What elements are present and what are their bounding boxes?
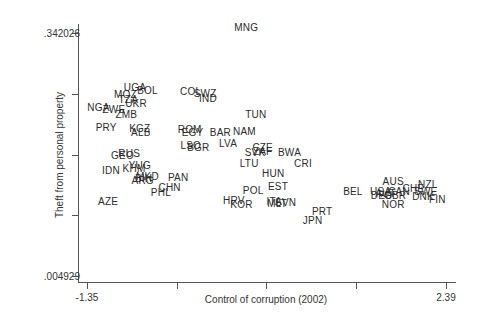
x-tick [177, 283, 178, 289]
data-point-label: PHL [151, 188, 171, 198]
data-point-label: BWA [278, 148, 301, 158]
data-point-label: BOL [137, 86, 158, 96]
data-point-label: EGY [182, 128, 204, 138]
data-point-label: ZMB [116, 110, 138, 120]
data-point-label: EST [268, 182, 288, 192]
data-point-label: LTU [240, 159, 259, 169]
data-point-label: IDN [102, 166, 120, 176]
data-point-label: NAM [233, 127, 256, 137]
data-point-label: TUN [245, 110, 266, 120]
scatter-plot: .342026 .004929 -1.35 2.39 Theft from pe… [0, 0, 484, 327]
data-point-label: BEL [343, 187, 363, 197]
data-point-label: BAR [210, 128, 231, 138]
data-point-label: KOR [230, 200, 252, 210]
x-axis-line [78, 282, 456, 283]
data-point-label: BGR [187, 143, 209, 153]
y-tick [72, 155, 78, 156]
data-point-label: FIN [429, 195, 446, 205]
x-axis-title: Control of corruption (2002) [205, 294, 327, 305]
y-tick-label-max: .342026 [44, 28, 80, 39]
data-point-label: JPN [303, 216, 323, 226]
data-point-label: UKR [125, 99, 147, 109]
data-point-label: PRY [96, 123, 117, 133]
x-tick [356, 283, 357, 289]
y-axis-line [78, 24, 79, 282]
data-point-label: SVK [245, 148, 266, 158]
data-point-label: SVN [275, 198, 296, 208]
y-axis-title: Theft from personal property [54, 92, 65, 218]
data-point-label: LVA [219, 139, 237, 149]
x-tick [446, 283, 447, 289]
data-point-label: ALB [131, 128, 151, 138]
data-point-label: NOR [382, 200, 405, 210]
data-point-label: HUN [262, 169, 284, 179]
data-point-label: CRI [294, 159, 312, 169]
y-tick [72, 94, 78, 95]
data-point-label: IND [199, 94, 217, 104]
y-tick [72, 215, 78, 216]
data-point-label: MNG [234, 23, 258, 33]
x-tick [266, 283, 267, 289]
x-tick-label-max: 2.39 [436, 292, 455, 303]
data-point-label: AZE [98, 197, 118, 207]
y-tick-label-min: .004929 [44, 271, 80, 282]
x-tick-label-min: -1.35 [76, 292, 99, 303]
x-tick [87, 283, 88, 289]
data-point-label: ARG [132, 176, 154, 186]
data-point-label: POL [243, 186, 264, 196]
